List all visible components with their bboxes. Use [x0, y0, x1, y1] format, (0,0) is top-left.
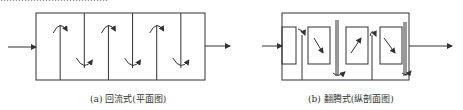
diagram-b-tumbling [262, 13, 452, 80]
caption-a: (a) 回流式(平面图) [90, 92, 166, 105]
flow-arrows-a [53, 25, 189, 65]
flow-arrow-b-1 [298, 29, 305, 35]
flow-arrow-b-3 [333, 72, 345, 75]
chamber-b-3 [380, 27, 402, 64]
chamber-b-2 [346, 27, 368, 64]
caption-b: (b) 翻腾式(纵剖面图) [308, 92, 394, 105]
flow-arrow-b-2 [314, 38, 323, 53]
inlet-chamber [282, 27, 296, 64]
baffles-a [60, 13, 181, 80]
tank-outline-a [36, 13, 205, 80]
flow-arrow-b-5 [370, 32, 376, 37]
flow-arrow-b-6 [384, 38, 395, 53]
diagram-a-round-trip [8, 13, 230, 80]
flow-arrow-b-4 [351, 38, 361, 53]
